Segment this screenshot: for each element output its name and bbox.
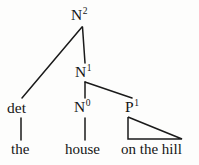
node-n1-superscript: 1 (87, 63, 92, 73)
node-n0-superscript: 0 (86, 98, 91, 108)
terminal-house: house (65, 142, 100, 157)
node-det: det (7, 100, 26, 116)
node-n1: N1 (75, 64, 91, 80)
terminal-the: the (11, 142, 29, 157)
node-n2-superscript: 2 (83, 6, 88, 16)
edge-root-to-nbar (83, 27, 86, 63)
node-n0-base: N (74, 98, 85, 115)
edge-root-to-det (22, 27, 82, 98)
terminal-on-the-hill: on the hill (121, 142, 182, 157)
node-n1-base: N (75, 63, 86, 80)
node-p1-base: P (125, 98, 134, 115)
pbar-triangle-icon (128, 117, 182, 139)
node-det-base: det (7, 99, 26, 116)
node-p1: P1 (125, 99, 139, 115)
node-p1-superscript: 1 (134, 98, 139, 108)
node-n2-base: N (71, 6, 82, 23)
node-n2: N2 (71, 7, 87, 23)
syntax-tree-figure: N2 N1 N0 P1 det the house on the hill (0, 0, 199, 165)
edge-nbar-to-pbar (85, 82, 132, 98)
node-n0: N0 (74, 99, 90, 115)
